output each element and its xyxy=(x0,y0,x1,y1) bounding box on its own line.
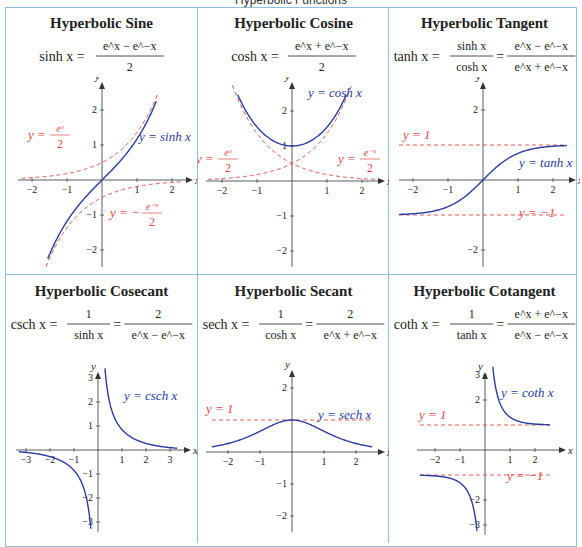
formula: cosh x =e^x + e^−x2 xyxy=(198,35,389,75)
curve-label: y = −1 xyxy=(505,468,543,483)
y-tick-label: −1 xyxy=(276,210,287,221)
numerator: e^x + e^−x xyxy=(515,307,568,321)
label: eˣ xyxy=(56,123,64,134)
equals: = xyxy=(496,49,504,64)
x-tick-label: 2 xyxy=(551,184,556,195)
y-tick-label: 3 xyxy=(475,369,480,380)
page-title: Hyperbolic Functions xyxy=(0,0,582,7)
numerator: 1 xyxy=(86,307,92,321)
cell-sinh: Hyperbolic Sine sinh x =e^x − e^−x2xy−2−… xyxy=(6,7,197,274)
x-tick-label: −2 xyxy=(223,456,234,467)
function-plot: xy−2−112−2−323y = coth xy = 1y = −1 xyxy=(389,347,580,543)
label: 2 xyxy=(367,161,373,175)
x-axis-label: x xyxy=(567,444,573,456)
x-tick-label: −1 xyxy=(443,184,454,195)
curve-label: y = −1 xyxy=(517,205,555,220)
y-tick-label: 2 xyxy=(473,104,478,115)
y-axis-label: y xyxy=(284,358,290,370)
x-tick-label: 1 xyxy=(322,456,327,467)
denominator: e^x − e^−x xyxy=(132,328,185,342)
formula-lhs: sech x = xyxy=(203,317,250,332)
label: 2 xyxy=(225,161,231,175)
x-tick-label: 1 xyxy=(516,184,521,195)
curve-label: y = cosh x xyxy=(306,85,362,100)
formula: csch x =1sinh x=2e^x − e^−x xyxy=(6,303,197,343)
x-tick-label: −2 xyxy=(27,184,38,195)
curve-label: y = 1 xyxy=(417,407,447,422)
x-tick-label: 3 xyxy=(168,454,173,465)
y-tick-label: 3 xyxy=(88,372,93,383)
curve-label: y = tanh x xyxy=(517,155,572,170)
y-tick-label: −1 xyxy=(86,209,97,220)
y-tick-label: 2 xyxy=(475,394,480,405)
curve-label: y = 1 xyxy=(204,401,234,416)
x-tick-label: −1 xyxy=(252,185,263,196)
cell-title: Hyperbolic Cosine xyxy=(198,15,389,32)
curve-label: y = 1 xyxy=(401,127,431,142)
y-tick-label: −3 xyxy=(469,519,480,530)
function-plot: xy−2−112−22y = tanh xy = 1y = −1 xyxy=(389,77,580,273)
x-tick-label: 2 xyxy=(170,184,175,195)
guide-label: y = xyxy=(108,205,128,220)
label: 2 xyxy=(57,137,63,151)
y-tick-label: 2 xyxy=(92,104,97,115)
numerator: 2 xyxy=(155,307,161,321)
y-axis-label: y xyxy=(90,360,96,372)
formula-lhs: tanh x = xyxy=(394,49,440,64)
formula-lhs: csch x = xyxy=(11,317,58,332)
label: − xyxy=(132,205,139,220)
guide-label: y = xyxy=(336,151,356,166)
y-tick-label: 2 xyxy=(88,396,93,407)
x-axis-label: x xyxy=(577,174,580,186)
x-tick-label: 2 xyxy=(360,185,365,196)
cell-title: Hyperbolic Cotangent xyxy=(389,283,580,300)
cell-csch: Hyperbolic Cosecant csch x =1sinh x=2e^x… xyxy=(6,275,197,543)
equals: = xyxy=(305,317,313,332)
cell-title: Hyperbolic Cosecant xyxy=(6,283,197,300)
y-tick-label: −3 xyxy=(82,516,93,527)
numerator: e^x + e^−x xyxy=(295,39,348,53)
label: eˣ xyxy=(224,147,232,158)
label: e⁻ˣ xyxy=(364,147,377,158)
y-axis-label: y xyxy=(475,77,481,82)
curve-label: y = sinh x xyxy=(137,129,191,144)
curve-label: y = csch x xyxy=(122,388,177,403)
y-axis-label: y xyxy=(94,77,100,82)
formula: tanh x =sinh xcosh x=e^x − e^−xe^x + e^−… xyxy=(389,35,580,75)
function-plot: xy−3−2−1123−3−2−1123y = csch x xyxy=(6,347,197,543)
equals: = xyxy=(113,317,121,332)
cell-tanh: Hyperbolic Tangent tanh x =sinh xcosh x=… xyxy=(389,7,580,274)
denominator: cosh x xyxy=(456,60,487,74)
x-tick-label: 2 xyxy=(354,456,359,467)
formula: coth x =1tanh x=e^x + e^−xe^x − e^−x xyxy=(389,303,580,343)
cell-title: Hyperbolic Secant xyxy=(198,283,389,300)
x-tick-label: −1 xyxy=(255,456,266,467)
numerator: sinh x xyxy=(457,39,486,53)
formula-lhs: coth x = xyxy=(394,317,440,332)
numerator: e^x − e^−x xyxy=(515,39,568,53)
x-tick-label: 2 xyxy=(533,454,538,465)
function-plot: xy−2−112−2−12y = sech xy = 1 xyxy=(198,347,389,543)
x-tick-label: 2 xyxy=(144,454,149,465)
denominator: sinh x xyxy=(74,328,103,342)
x-tick-label: −1 xyxy=(62,184,73,195)
guide-label: y = xyxy=(198,151,214,166)
x-tick-label: −2 xyxy=(408,184,419,195)
x-tick-label: 1 xyxy=(508,454,513,465)
y-tick-label: −2 xyxy=(276,510,287,521)
x-axis-label: x xyxy=(194,174,197,186)
y-tick-label: −1 xyxy=(82,468,93,479)
denominator: e^x + e^−x xyxy=(515,60,568,74)
cell-sech: Hyperbolic Secant sech x =1cosh x=2e^x +… xyxy=(198,275,389,543)
denominator: tanh x xyxy=(457,328,487,342)
x-tick-label: −2 xyxy=(217,185,228,196)
formula-lhs: cosh x = xyxy=(231,49,279,64)
formula-lhs: sinh x = xyxy=(39,49,84,64)
x-tick-label: 1 xyxy=(325,185,330,196)
cell-title: Hyperbolic Sine xyxy=(6,15,197,32)
cell-cosh: Hyperbolic Cosine cosh x =e^x + e^−x2xy−… xyxy=(198,7,389,274)
numerator: 1 xyxy=(278,307,284,321)
label: 2 xyxy=(149,215,155,229)
x-tick-label: −3 xyxy=(21,454,32,465)
cell-title: Hyperbolic Tangent xyxy=(389,15,580,32)
